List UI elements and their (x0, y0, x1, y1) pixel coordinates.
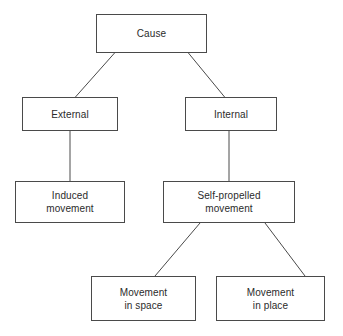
edge-selfpropelled-place (265, 223, 305, 276)
node-cause-label: Cause (97, 27, 206, 40)
node-movement-in-space-label: Movement in space (92, 286, 195, 312)
edge-selfpropelled-space (155, 223, 200, 276)
node-movement-in-place-label: Movement in place (217, 286, 324, 312)
node-external: External (22, 97, 118, 131)
edge-cause-external (75, 53, 115, 98)
diagram-canvas: Cause External Internal Induced movement… (0, 0, 343, 336)
node-movement-in-place: Movement in place (216, 276, 325, 321)
node-internal: Internal (185, 97, 277, 131)
node-self-propelled-movement: Self-propelled movement (163, 181, 295, 223)
edge-cause-internal (188, 53, 225, 98)
node-cause: Cause (96, 14, 207, 53)
node-induced-movement-label: Induced movement (16, 189, 124, 215)
node-self-propelled-movement-label: Self-propelled movement (164, 189, 294, 215)
node-internal-label: Internal (186, 108, 276, 121)
node-movement-in-space: Movement in space (91, 276, 196, 321)
node-external-label: External (23, 108, 117, 121)
node-induced-movement: Induced movement (15, 181, 125, 223)
